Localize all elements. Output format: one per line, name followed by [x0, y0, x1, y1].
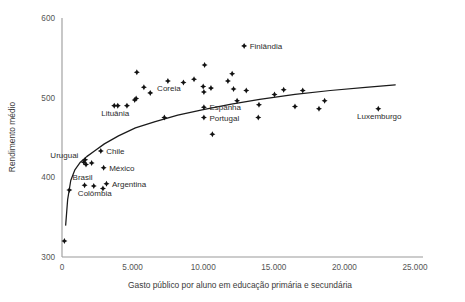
data-point-marker: [201, 89, 207, 95]
x-tick-label: 5.000: [122, 263, 143, 272]
point-label: Chile: [106, 147, 125, 156]
data-point-marker: [134, 69, 140, 75]
data-point-marker: [82, 182, 88, 188]
data-point-marker: [141, 84, 147, 90]
point-labels: UruguaiChileBrasilColômbiaArgentinaMéxic…: [50, 42, 402, 198]
data-point-marker: [255, 115, 261, 121]
point-label: México: [109, 164, 135, 173]
x-tick-labels: 05.00010.00015.00020.00025.000: [60, 263, 428, 272]
data-point-marker: [191, 76, 197, 82]
data-point-marker: [229, 71, 235, 77]
y-tick-labels: 300400500600: [41, 14, 55, 262]
point-label: Espanha: [209, 103, 241, 112]
y-tick-label: 300: [41, 253, 55, 262]
data-point-marker: [202, 62, 208, 68]
data-point-marker: [322, 98, 328, 104]
scatter-chart: 300400500600 05.00010.00015.00020.00025.…: [0, 0, 465, 302]
data-point-marker: [231, 86, 237, 92]
point-label: Portugal: [209, 114, 239, 123]
y-tick-label: 400: [41, 173, 55, 182]
point-label: Coreia: [157, 84, 181, 93]
data-point-marker: [180, 80, 186, 86]
data-point-marker: [243, 87, 249, 93]
data-point-marker: [241, 43, 247, 49]
data-point-marker: [300, 87, 306, 93]
data-point-marker: [225, 78, 231, 84]
data-point-marker: [147, 90, 153, 96]
data-point-marker: [316, 106, 322, 112]
chart-canvas: 300400500600 05.00010.00015.00020.00025.…: [0, 0, 465, 302]
point-label: Finlândia: [250, 42, 283, 51]
x-tick-label: 0: [60, 263, 65, 272]
data-point-marker: [89, 160, 95, 166]
x-axis-title: Gasto público por aluno em educação prim…: [128, 280, 352, 290]
point-label: Lituânia: [101, 109, 130, 118]
point-label: Colômbia: [78, 189, 112, 198]
data-point-marker: [201, 115, 207, 121]
y-tick-label: 600: [41, 14, 55, 23]
x-tick-label: 10.000: [191, 263, 216, 272]
data-points: [61, 43, 381, 244]
x-tick-label: 25.000: [402, 263, 427, 272]
point-label: Luxemburgo: [357, 112, 402, 121]
data-point-marker: [281, 87, 287, 93]
data-point-marker: [101, 165, 107, 171]
y-tick-label: 500: [41, 94, 55, 103]
x-tick-label: 15.000: [261, 263, 286, 272]
data-point-marker: [209, 131, 215, 137]
data-point-marker: [200, 84, 206, 90]
x-tick-label: 20.000: [332, 263, 357, 272]
data-point-marker: [208, 85, 214, 91]
point-label: Argentina: [112, 180, 147, 189]
data-point-marker: [98, 148, 104, 154]
data-point-marker: [103, 181, 109, 187]
data-point-marker: [256, 102, 262, 108]
point-label: Uruguai: [50, 151, 78, 160]
data-point-marker: [292, 103, 298, 109]
data-point-marker: [66, 187, 72, 193]
y-axis-title: Rendimento médio: [7, 102, 17, 173]
point-label: Brasil: [73, 173, 93, 182]
